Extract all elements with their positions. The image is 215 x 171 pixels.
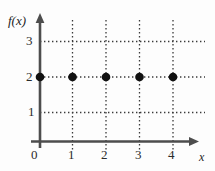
data-point[interactable] bbox=[169, 73, 178, 82]
x-tick-label-0: 0 bbox=[31, 148, 38, 161]
y-tick-label-2: 2 bbox=[26, 70, 33, 83]
x-axis-label: x bbox=[199, 150, 204, 165]
data-point[interactable] bbox=[36, 73, 45, 82]
chart-figure: f(x) x 3 2 1 0 1 2 3 4 bbox=[0, 0, 215, 171]
chart-svg bbox=[0, 0, 215, 171]
y-axis-label: f(x) bbox=[8, 13, 26, 29]
data-point[interactable] bbox=[102, 73, 111, 82]
y-tick-label-3: 3 bbox=[26, 34, 33, 47]
x-axis-arrow-icon bbox=[189, 137, 199, 146]
vertical-gridlines bbox=[73, 20, 174, 152]
data-point[interactable] bbox=[68, 73, 77, 82]
data-point[interactable] bbox=[135, 73, 144, 82]
x-tick-label-3: 3 bbox=[135, 148, 142, 161]
y-axis-arrow-icon bbox=[36, 13, 45, 23]
x-tick-label-4: 4 bbox=[168, 148, 175, 161]
plot-area bbox=[0, 0, 215, 171]
horizontal-gridlines bbox=[40, 42, 205, 113]
y-tick-label-1: 1 bbox=[28, 105, 35, 118]
x-tick-label-2: 2 bbox=[101, 148, 108, 161]
x-axis bbox=[31, 137, 199, 146]
x-tick-label-1: 1 bbox=[68, 148, 75, 161]
